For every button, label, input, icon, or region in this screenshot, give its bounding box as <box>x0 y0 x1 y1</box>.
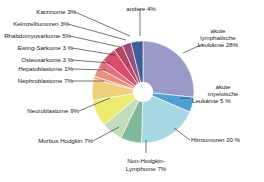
leader-line-rhabdomyosarkome <box>70 36 120 47</box>
label-hirntumoren: Hirntumoren 20 % <box>191 136 263 143</box>
label-aml-line3: Leukämie 5 % <box>192 97 262 104</box>
label-hepatoblastome: Hepatoblastome 1% <box>0 65 73 72</box>
label-nhl-line2: Lymphome 7% <box>112 165 180 172</box>
label-rhabdomyosarkome: Rhabdomyosarkome 5% <box>0 32 71 39</box>
leader-line-ewing-sarkome <box>72 48 115 55</box>
label-osteosarkome: Osteosarkome 3 % <box>0 56 73 63</box>
leader-line-karzinome <box>75 12 130 36</box>
label-neuroblastome: Neuroblastome 9% <box>0 107 79 114</box>
label-andere: andere 4% <box>118 5 164 12</box>
label-karzinome: Karzinome 3% <box>0 8 76 15</box>
label-nephroblastome: Nephroblastome 7% <box>0 77 73 84</box>
label-ewing-sarkome: Ewing-Sarkome 3 % <box>0 44 73 51</box>
label-all-line3: Leukämie 28% <box>186 41 250 48</box>
donut-hole <box>133 82 153 102</box>
label-morbus-hodgkin: Morbus Hodgkin 7% <box>5 137 93 144</box>
pie-chart-figure: Karzinome 3% andere 4% Keimzelltumoren 3… <box>0 0 264 182</box>
leader-line-hirntumoren <box>174 128 190 140</box>
label-nhl-line1: Non-Hodgkin- <box>112 157 180 164</box>
label-keimzelltumoren: Keimzelltumoren 3% <box>0 20 69 27</box>
